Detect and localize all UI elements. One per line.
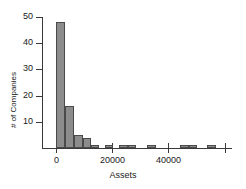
x-tick-label: 40000 <box>145 155 192 165</box>
histogram-bar <box>147 145 156 148</box>
histogram-bar <box>65 106 74 148</box>
y-tick-mark <box>36 43 42 44</box>
y-tick-mark <box>36 17 42 18</box>
histogram-bar <box>105 145 113 148</box>
x-tick-label: 0 <box>41 155 72 165</box>
histogram-bar <box>83 138 91 148</box>
histogram-chart: 50 40 30 20 10 # of Companies 0 20000 40… <box>0 0 246 189</box>
y-tick-label: 50 <box>12 11 33 21</box>
y-axis-line <box>42 17 43 149</box>
histogram-bar <box>207 145 216 148</box>
plot-area: 50 40 30 20 10 # of Companies 0 20000 40… <box>0 0 246 189</box>
histogram-bar <box>74 135 83 148</box>
y-tick-mark <box>36 69 42 70</box>
histogram-bar <box>180 145 189 148</box>
x-axis-line <box>42 148 232 149</box>
histogram-bar <box>56 22 65 148</box>
y-axis-label: # of Companies <box>9 72 18 128</box>
x-tick-mark <box>225 143 226 153</box>
histogram-bar <box>119 145 128 148</box>
histogram-bar <box>91 145 99 148</box>
y-tick-label: 40 <box>12 37 33 47</box>
x-axis-label: Assets <box>0 170 246 180</box>
histogram-bar <box>128 145 136 148</box>
y-tick-mark <box>36 96 42 97</box>
x-tick-mark <box>168 143 169 153</box>
y-tick-mark <box>36 122 42 123</box>
x-tick-label: 20000 <box>89 155 136 165</box>
histogram-bar <box>189 145 197 148</box>
